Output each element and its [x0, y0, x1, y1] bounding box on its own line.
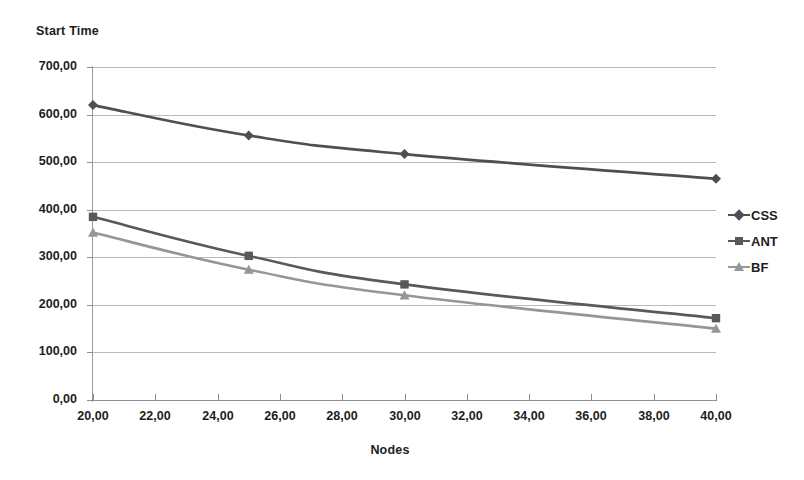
series-css [88, 100, 721, 184]
series-plot [0, 0, 804, 480]
data-point-marker [244, 131, 254, 141]
legend-swatch-diamond-icon [728, 208, 750, 222]
series-line [93, 105, 716, 179]
data-point-marker [245, 252, 253, 260]
legend: CSSANTBF [728, 202, 778, 280]
legend-swatch-triangle-icon [728, 260, 750, 274]
series-line [93, 217, 716, 318]
legend-item-css[interactable]: CSS [728, 202, 778, 228]
series-bf [88, 228, 721, 333]
data-point-marker [712, 314, 720, 322]
series-ant [89, 213, 720, 323]
legend-label: ANT [751, 235, 778, 248]
line-chart: Start Time Nodes 0,00100,00200,00300,004… [0, 0, 804, 480]
legend-swatch-square-icon [728, 234, 750, 248]
data-point-marker [400, 149, 410, 159]
legend-label: BF [751, 261, 768, 274]
legend-item-ant[interactable]: ANT [728, 228, 778, 254]
data-point-marker [711, 174, 721, 184]
data-point-marker [400, 280, 408, 288]
data-point-marker [88, 100, 98, 110]
legend-item-bf[interactable]: BF [728, 254, 778, 280]
data-point-marker [89, 213, 97, 221]
legend-label: CSS [751, 209, 778, 222]
